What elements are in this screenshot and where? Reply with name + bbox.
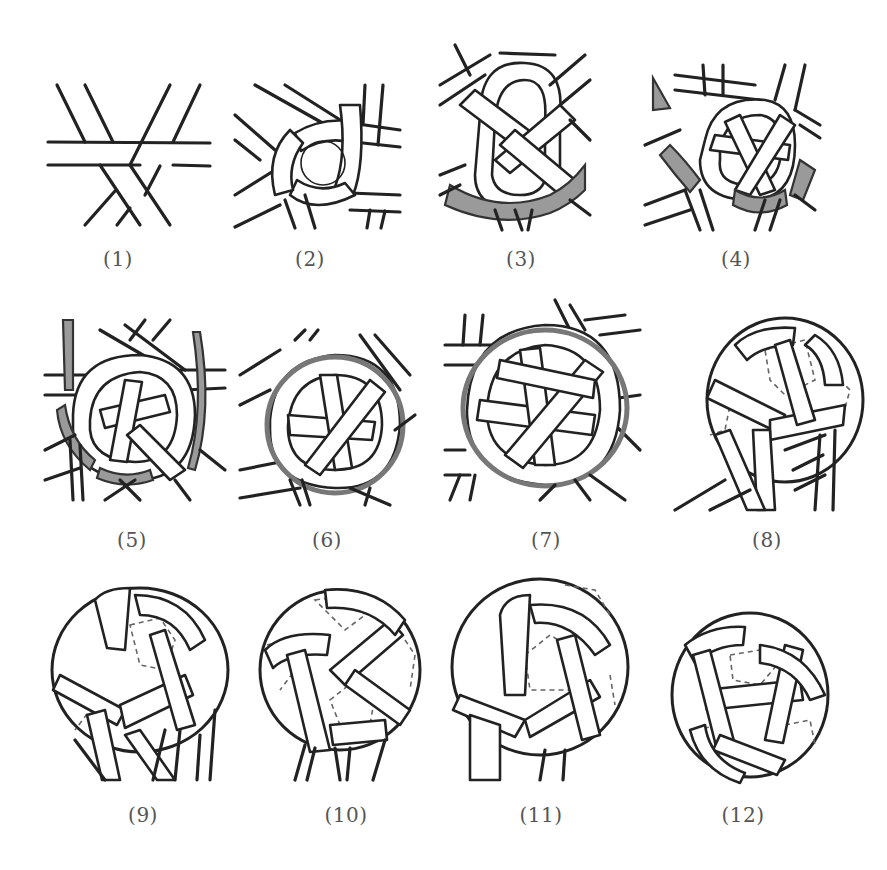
loop-diagram bbox=[440, 45, 590, 230]
crossed-strips-diagram bbox=[45, 85, 215, 230]
weaving-steps-figure: (1) (2) bbox=[0, 0, 887, 870]
finished-ball-diagram bbox=[665, 605, 835, 785]
panel-1-caption: (1) bbox=[78, 247, 158, 271]
panel-9 bbox=[45, 580, 235, 780]
panel-8-caption: (8) bbox=[727, 528, 807, 552]
panel-11 bbox=[445, 575, 635, 780]
panel-10 bbox=[255, 580, 430, 780]
nearly-closed-ball-diagram bbox=[445, 575, 635, 780]
second-strip-diagram bbox=[645, 50, 820, 230]
panel-6-caption: (6) bbox=[287, 528, 367, 552]
pentagon-start-diagram bbox=[235, 85, 400, 230]
panel-9-caption: (9) bbox=[103, 803, 183, 827]
panel-5 bbox=[45, 320, 225, 500]
panel-2 bbox=[235, 85, 400, 230]
panel-4 bbox=[645, 50, 820, 230]
panel-8 bbox=[675, 310, 860, 510]
panel-3 bbox=[440, 45, 590, 230]
dome-shaping-diagram bbox=[240, 330, 415, 505]
panel-3-caption: (3) bbox=[481, 247, 561, 271]
panel-2-caption: (2) bbox=[270, 247, 350, 271]
panel-4-caption: (4) bbox=[696, 247, 776, 271]
ball-rotated-diagram bbox=[255, 580, 430, 780]
panel-6 bbox=[240, 330, 415, 505]
panel-12-caption: (12) bbox=[703, 803, 783, 827]
panel-12 bbox=[665, 605, 835, 785]
ball-tightening-diagram bbox=[45, 580, 235, 780]
panel-7-caption: (7) bbox=[506, 528, 586, 552]
panel-7 bbox=[445, 300, 635, 500]
panel-10-caption: (10) bbox=[306, 803, 386, 827]
panel-1 bbox=[45, 85, 215, 230]
panel-11-caption: (11) bbox=[501, 803, 581, 827]
panel-5-caption: (5) bbox=[92, 528, 172, 552]
ball-form-diagram bbox=[675, 310, 860, 510]
ring-weave-diagram bbox=[45, 320, 225, 500]
full-ring-diagram bbox=[445, 300, 635, 500]
